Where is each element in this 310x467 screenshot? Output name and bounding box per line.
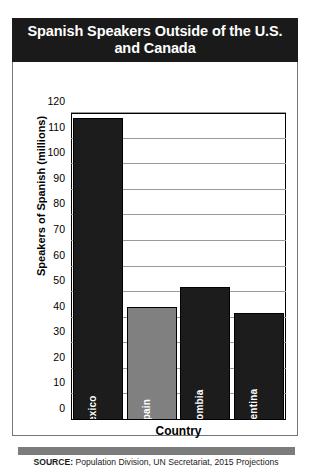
chart-body: Speakers of Spanish (millions) 010203040…: [12, 62, 298, 436]
bottom-decorative-strip: [18, 447, 295, 455]
bar-label-spain: Spain: [141, 399, 152, 420]
y-axis-tick-label: 0: [59, 402, 65, 414]
bar-label-argentina: Argentina: [248, 389, 259, 420]
chart-title-banner: Spanish Speakers Outside of the U.S. and…: [12, 18, 298, 62]
y-axis-tick-label: 80: [53, 197, 65, 209]
plot-area: 0102030405060708090100110120 MexicoSpain…: [71, 113, 286, 420]
y-axis-tick-label: 120: [47, 95, 65, 107]
source-label: SOURCE:: [33, 457, 73, 467]
y-axis-tick-label: 60: [53, 249, 65, 261]
y-axis-tick-label: 110: [48, 121, 65, 133]
x-axis-title: Country: [71, 424, 286, 438]
y-axis-tick-label: 50: [53, 274, 65, 286]
bar-label-colombia: Colombia: [194, 389, 205, 420]
source-note: SOURCE: Population Division, UN Secretar…: [21, 457, 291, 467]
y-axis-tick-label: 20: [53, 351, 65, 363]
bar-slot: Colombia: [180, 113, 230, 420]
bar-slot: Argentina: [234, 113, 284, 420]
chart-figure: Spanish Speakers Outside of the U.S. and…: [12, 18, 298, 436]
bar-colombia[interactable]: Colombia: [180, 287, 230, 420]
y-axis-tick-label: 90: [53, 172, 65, 184]
y-axis-tick-label: 40: [53, 300, 65, 312]
y-axis-title: Speakers of Spanish (millions): [35, 116, 47, 276]
bar-spain[interactable]: Spain: [127, 307, 177, 420]
bar-argentina[interactable]: Argentina: [234, 313, 284, 420]
bar-series: MexicoSpainColombiaArgentina: [71, 113, 286, 420]
bar-slot: Mexico: [73, 113, 123, 420]
y-axis-tick-label: 100: [47, 146, 65, 158]
chart-title: Spanish Speakers Outside of the U.S. and…: [20, 23, 290, 57]
bar-slot: Spain: [127, 113, 177, 420]
bar-label-mexico: Mexico: [87, 395, 98, 420]
y-axis-tick-label: 30: [53, 325, 65, 337]
bar-mexico[interactable]: Mexico: [73, 118, 123, 420]
y-axis-tick-label: 10: [53, 376, 65, 388]
y-axis-tick-label: 70: [53, 223, 65, 235]
source-text: Population Division, UN Secretariat, 201…: [73, 457, 278, 467]
